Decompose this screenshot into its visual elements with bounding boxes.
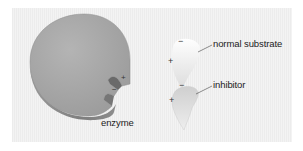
inhibitor-positive-charge: + (169, 96, 174, 105)
enzyme-inhibition-illustration (0, 0, 303, 151)
inhibitor-shape (172, 86, 198, 130)
normal-substrate-shape (172, 39, 200, 88)
inhibitor-label: inhibitor (213, 79, 245, 90)
enzyme-site-negative-charge: − (112, 85, 117, 94)
substrate-negative-charge: − (178, 37, 183, 46)
enzyme-label: enzyme (101, 117, 134, 128)
inhibitor-negative-charge: − (179, 81, 184, 90)
enzyme-shape (30, 14, 130, 120)
inhibitor-leader-line (196, 86, 212, 94)
normal-substrate-label: normal substrate (213, 38, 282, 49)
substrate-positive-charge: + (168, 57, 173, 66)
enzyme-site-positive-charge: + (121, 73, 126, 82)
